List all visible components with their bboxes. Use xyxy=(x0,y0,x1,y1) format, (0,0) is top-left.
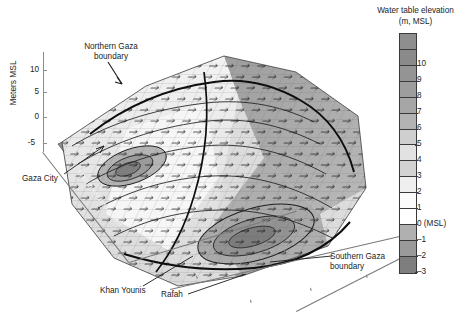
colorbar-tick-label--2: –2 xyxy=(417,251,426,260)
colorbar-band-0 xyxy=(400,34,416,50)
colorbar-tick-4 xyxy=(415,113,418,114)
y-axis-line xyxy=(43,52,44,152)
colorbar-band-11 xyxy=(400,209,416,225)
colorbar-tick-label-3: 3 xyxy=(417,171,422,180)
legend-title-line1: Water table elevation xyxy=(372,6,459,17)
colorbar-tick-2 xyxy=(415,81,418,82)
colorbar-tick-3 xyxy=(415,97,418,98)
colorbar-tick-label-2: 2 xyxy=(417,187,422,196)
colorbar xyxy=(399,33,417,274)
colorbar-tick-label-1: 1 xyxy=(417,203,422,212)
y-tick-neg5 xyxy=(43,143,47,144)
colorbar-tick-9 xyxy=(415,192,418,193)
annotation-southern-gaza-boundary: Southern Gaza boundary xyxy=(330,252,385,272)
colorbar-tick-10 xyxy=(415,208,418,209)
legend-title-line2: (m, MSL) xyxy=(372,17,459,28)
annotation-rafah: Rafah xyxy=(161,290,183,300)
colorbar-tick-label-10: 10 xyxy=(417,59,426,68)
colorbar-tick-label-8: 8 xyxy=(417,91,422,100)
y-axis-title: Meters MSL xyxy=(8,51,18,115)
colorbar-band-3 xyxy=(400,82,416,98)
colorbar-tick-label-4: 4 xyxy=(417,155,422,164)
colorbar-band-4 xyxy=(400,98,416,114)
colorbar-tick-12 xyxy=(415,240,418,241)
colorbar-tick-7 xyxy=(415,160,418,161)
colorbar-tick-label--1: –1 xyxy=(417,235,426,244)
annotation-gaza-city: Gaza City xyxy=(22,174,58,184)
northern-gaza-line1: Northern Gaza xyxy=(68,42,154,52)
colorbar-tick-5 xyxy=(415,129,418,130)
colorbar-tick-13 xyxy=(415,256,418,257)
colorbar-band-5 xyxy=(400,114,416,130)
colorbar-band-10 xyxy=(400,193,416,209)
southern-gaza-leader xyxy=(268,248,336,268)
colorbar-tick-14 xyxy=(415,272,418,273)
colorbar-tick-label-0: 0 (MSL) xyxy=(417,219,446,228)
annotation-northern-gaza-boundary: Northern Gaza boundary xyxy=(68,42,154,62)
colorbar-band-14 xyxy=(400,257,416,273)
southern-gaza-line1: Southern Gaza xyxy=(330,252,385,262)
rafah-leader xyxy=(186,270,250,298)
colorbar-tick-label-7: 7 xyxy=(417,107,422,116)
colorbar-tick-1 xyxy=(415,65,418,66)
colorbar-tick-6 xyxy=(415,145,418,146)
colorbar-band-13 xyxy=(400,241,416,257)
legend: Water table elevation (m, MSL) 109876543… xyxy=(372,6,459,27)
colorbar-band-9 xyxy=(400,177,416,193)
colorbar-tick-8 xyxy=(415,176,418,177)
y-tick-label-neg5: -5 xyxy=(13,138,35,147)
colorbar-band-8 xyxy=(400,161,416,177)
y-tick-label-10: 10 xyxy=(17,65,39,74)
colorbar-tick-11 xyxy=(415,224,418,225)
legend-title: Water table elevation (m, MSL) xyxy=(372,6,459,27)
southern-gaza-line2: boundary xyxy=(330,262,385,272)
y-tick-10 xyxy=(43,70,47,71)
y-tick-label-5: 5 xyxy=(17,87,39,96)
figure-root: 10 5 0 -5 Meters MSL Northern Gaza bound… xyxy=(0,0,459,324)
colorbar-band-12 xyxy=(400,225,416,241)
base-tick-4 xyxy=(250,300,252,303)
colorbar-tick-label-9: 9 xyxy=(417,75,422,84)
colorbar-tick-label-6: 6 xyxy=(417,123,422,132)
y-tick-0 xyxy=(43,117,47,118)
colorbar-band-2 xyxy=(400,66,416,82)
colorbar-band-6 xyxy=(400,130,416,146)
colorbar-band-7 xyxy=(400,145,416,161)
colorbar-tick-label-5: 5 xyxy=(417,139,422,148)
y-tick-5 xyxy=(43,92,47,93)
y-tick-label-0: 0 xyxy=(17,112,39,121)
colorbar-band-1 xyxy=(400,50,416,66)
colorbar-tick-label--3: –3 xyxy=(417,267,426,276)
northern-gaza-leader xyxy=(100,60,140,90)
